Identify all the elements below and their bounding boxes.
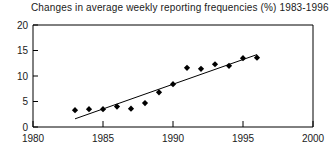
x-tick-label-1980: 1980 bbox=[22, 133, 45, 144]
data-point bbox=[72, 107, 78, 113]
data-point bbox=[198, 66, 204, 72]
data-point bbox=[86, 106, 92, 112]
data-point bbox=[212, 61, 218, 67]
data-point bbox=[100, 106, 106, 112]
x-axis-ticks bbox=[33, 121, 313, 127]
x-tick-labels: 1980 1985 1990 1995 2000 bbox=[22, 133, 325, 144]
y-tick-labels: 0 5 10 15 20 bbox=[17, 20, 29, 133]
data-point bbox=[128, 106, 134, 112]
x-tick-label-1995: 1995 bbox=[232, 133, 255, 144]
x-tick-label-1985: 1985 bbox=[92, 133, 115, 144]
y-tick-label-0: 0 bbox=[22, 122, 28, 133]
data-point bbox=[184, 65, 190, 71]
y-tick-label-20: 20 bbox=[17, 20, 29, 31]
chart-figure: Changes in average weekly reporting freq… bbox=[0, 0, 331, 150]
data-point bbox=[170, 81, 176, 87]
scatter-plot: 0 5 10 15 20 1980 1985 1990 1995 2000 bbox=[0, 0, 331, 150]
data-point bbox=[142, 100, 148, 106]
y-tick-label-15: 15 bbox=[17, 45, 29, 56]
y-tick-label-10: 10 bbox=[17, 71, 29, 82]
x-tick-label-1990: 1990 bbox=[162, 133, 185, 144]
y-axis-ticks bbox=[33, 25, 38, 127]
x-tick-label-2000: 2000 bbox=[302, 133, 325, 144]
y-tick-label-5: 5 bbox=[22, 96, 28, 107]
